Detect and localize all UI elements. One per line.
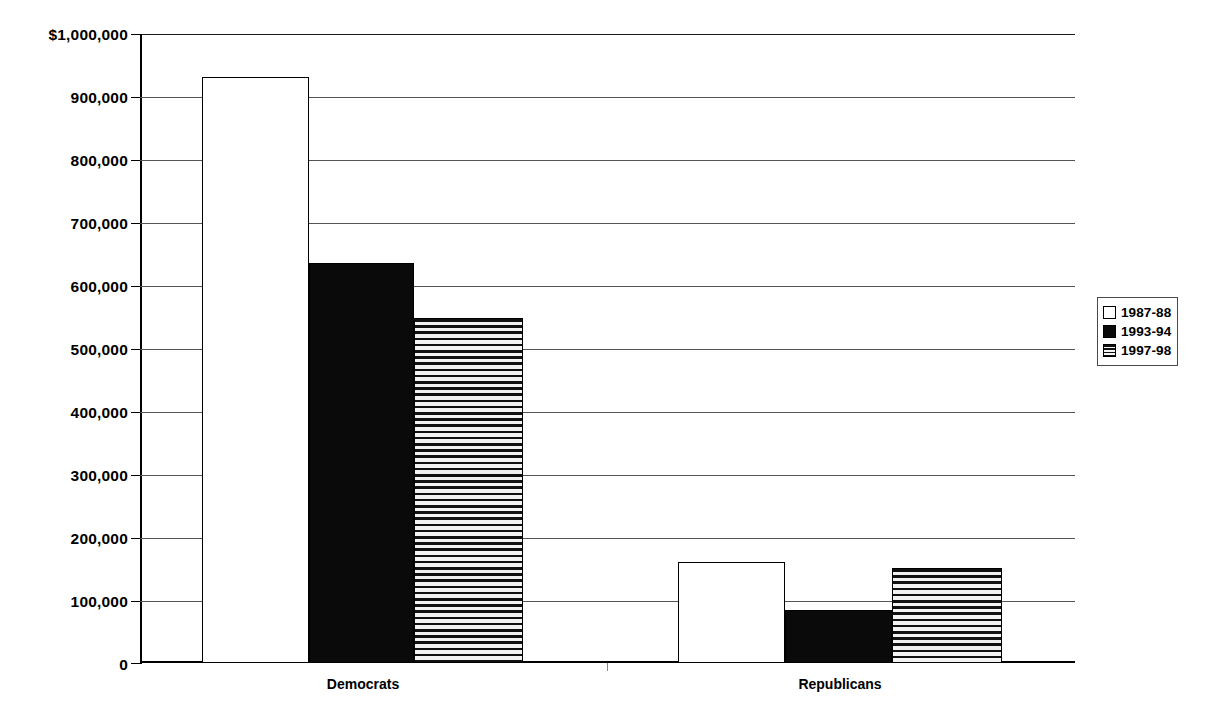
bar-democrats-1993-94[interactable] — [309, 263, 414, 663]
y-tick-label-1000000: $1,000,000 — [0, 27, 128, 43]
y-tick-label-300000: 300,000 — [0, 468, 128, 484]
legend-swatch-icon-1993-94 — [1103, 325, 1116, 338]
bar-chart: $1,000,000 900,000 800,000 700,000 600,0… — [0, 0, 1208, 705]
y-tick-mark-400000 — [131, 412, 140, 413]
category-separator — [607, 663, 608, 671]
bar-republicans-1993-94[interactable] — [785, 610, 892, 663]
plot-area — [140, 34, 1075, 663]
legend: 1987-88 1993-94 1997-98 — [1097, 297, 1178, 366]
y-tick-mark-500000 — [131, 349, 140, 350]
legend-label-1987-88: 1987-88 — [1121, 305, 1171, 320]
y-axis-label-group: $1,000,000 900,000 800,000 700,000 600,0… — [0, 0, 128, 705]
y-tick-mark-800000 — [131, 160, 140, 161]
y-tick-mark-900000 — [131, 97, 140, 98]
legend-item-1993-94[interactable]: 1993-94 — [1103, 322, 1171, 341]
bar-democrats-1987-88[interactable] — [202, 77, 309, 663]
y-tick-label-700000: 700,000 — [0, 216, 128, 232]
y-tick-label-100000: 100,000 — [0, 594, 128, 610]
legend-item-1997-98[interactable]: 1997-98 — [1103, 341, 1171, 360]
y-tick-label-200000: 200,000 — [0, 531, 128, 547]
legend-swatch-icon-1997-98 — [1103, 344, 1116, 357]
y-tick-label-900000: 900,000 — [0, 90, 128, 106]
y-tick-mark-200000 — [131, 538, 140, 539]
bar-democrats-1997-98[interactable] — [414, 318, 523, 663]
bar-republicans-1987-88[interactable] — [678, 562, 785, 663]
y-tick-label-600000: 600,000 — [0, 279, 128, 295]
y-tick-label-0: 0 — [0, 657, 128, 673]
legend-swatch-icon-1987-88 — [1103, 306, 1116, 319]
x-axis-label-democrats: Democrats — [327, 676, 399, 692]
plot-top-border — [140, 34, 1075, 35]
y-tick-mark-300000 — [131, 475, 140, 476]
bar-republicans-1997-98[interactable] — [892, 568, 1002, 663]
y-tick-mark-0 — [131, 663, 140, 664]
y-tick-label-800000: 800,000 — [0, 153, 128, 169]
legend-item-1987-88[interactable]: 1987-88 — [1103, 303, 1171, 322]
y-tick-mark-700000 — [131, 223, 140, 224]
y-tick-mark-600000 — [131, 286, 140, 287]
y-tick-mark-100000 — [131, 601, 140, 602]
legend-label-1993-94: 1993-94 — [1121, 324, 1171, 339]
x-axis-label-republicans: Republicans — [798, 676, 881, 692]
legend-label-1997-98: 1997-98 — [1121, 343, 1171, 358]
y-tick-mark-1000000 — [131, 34, 140, 35]
y-tick-label-400000: 400,000 — [0, 405, 128, 421]
y-tick-label-500000: 500,000 — [0, 342, 128, 358]
